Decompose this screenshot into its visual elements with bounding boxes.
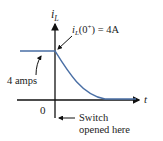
steady-annotation-arrow — [36, 56, 41, 75]
switch-annotation-line1: Switch — [79, 112, 109, 123]
initial-annotation-arrow — [58, 36, 72, 49]
y-axis-label: iL — [51, 7, 59, 23]
switch-annotation-line2: opened here — [79, 124, 130, 135]
x-axis-label: t — [144, 93, 148, 105]
origin-label: 0 — [40, 104, 46, 116]
current-curve — [20, 51, 136, 99]
inductor-current-diagram: iL t 0 iL(0+) = 4A 4 amps Switch opened … — [0, 0, 163, 141]
initial-current-annotation: iL(0+) = 4A — [72, 23, 119, 37]
steady-current-annotation: 4 amps — [7, 75, 37, 86]
